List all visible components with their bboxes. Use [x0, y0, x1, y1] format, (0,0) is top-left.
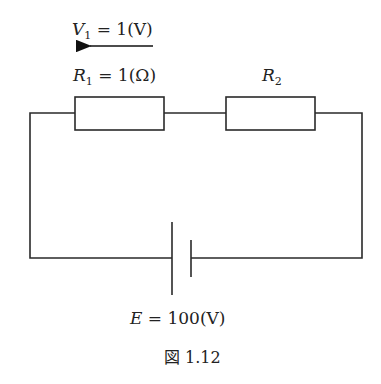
- wire-left: [30, 113, 172, 258]
- voltage-label: V1 = 1(V): [72, 19, 153, 42]
- source-label: E = 100(V): [129, 308, 225, 328]
- resistor-r1: [75, 97, 164, 130]
- wire-right: [191, 113, 362, 258]
- resistor-r2: [226, 97, 315, 130]
- circuit-diagram: V1 = 1(V) R1 = 1(Ω) R2 E = 100(V) 図 1.12: [0, 0, 381, 384]
- r2-label: R2: [261, 65, 282, 88]
- figure-caption: 図 1.12: [164, 348, 221, 367]
- r1-label: R1 = 1(Ω): [72, 65, 156, 88]
